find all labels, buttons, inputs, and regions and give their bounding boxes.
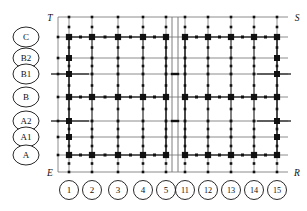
column-B-2 xyxy=(89,94,95,100)
corner-label-bottom-left: E xyxy=(46,168,53,178)
column-B-5 xyxy=(163,94,169,100)
vnode-4-0 xyxy=(142,46,145,49)
midspan-node-A-1-2 xyxy=(241,154,244,157)
vnode-bot-11 xyxy=(184,162,187,165)
node-A1-2 xyxy=(91,136,94,139)
vnode-13-4 xyxy=(230,128,233,131)
vnode-2-5 xyxy=(91,145,94,148)
vnode-5-4 xyxy=(165,128,168,131)
column-A-5 xyxy=(163,152,169,158)
vnode-3-4 xyxy=(117,128,120,131)
node-B1-11 xyxy=(184,73,187,76)
midspan-node-A-1-3 xyxy=(264,154,267,157)
midspan-node-C-1-3 xyxy=(264,36,267,39)
edge-node-top-1 xyxy=(68,16,71,19)
vnode-3-2 xyxy=(117,84,120,87)
vnode-5-0 xyxy=(165,46,168,49)
vnode-1-1 xyxy=(68,65,71,68)
column-C-3 xyxy=(115,34,121,40)
node-A1-4 xyxy=(142,136,145,139)
node-B2-3 xyxy=(117,57,120,60)
edge-node-bottom-13 xyxy=(230,171,233,174)
vnode-14-0 xyxy=(253,46,256,49)
edge-node-top-5 xyxy=(165,16,168,19)
row-label-text-A: A xyxy=(23,150,30,160)
vnode-2-0 xyxy=(91,46,94,49)
vnode-14-3 xyxy=(253,108,256,111)
vnode-bot-2 xyxy=(91,162,94,165)
vnode-bot-4 xyxy=(142,162,145,165)
col-label-text-14: 14 xyxy=(250,186,258,195)
edge-node-bottom-4 xyxy=(142,171,145,174)
row-label-text-B2: B2 xyxy=(21,53,32,63)
node-B2-14 xyxy=(253,57,256,60)
edge-node-top-2 xyxy=(91,16,94,19)
edge-node-left-B2 xyxy=(57,57,60,60)
midspan-node-A-1-0 xyxy=(195,154,198,157)
edge-node-top-13 xyxy=(230,16,233,19)
midspan-node-A-0-2 xyxy=(129,154,132,157)
vnode-1-3 xyxy=(68,108,71,111)
vnode-12-4 xyxy=(207,128,210,131)
node-B2-2 xyxy=(91,57,94,60)
column-C-1 xyxy=(66,34,72,40)
vnode-1-4 xyxy=(68,128,71,131)
vnode-5-5 xyxy=(165,145,168,148)
column-B-3 xyxy=(115,94,121,100)
midspan-node-C-0-3 xyxy=(153,36,156,39)
column-C-4 xyxy=(140,34,146,40)
node-A2-13 xyxy=(230,120,233,123)
vnode-bot-1 xyxy=(68,162,71,165)
expansion-joint-tick-0 xyxy=(171,73,179,75)
node-A2-5 xyxy=(165,120,168,123)
vnode-2-4 xyxy=(91,128,94,131)
midspan-node-B-1-1 xyxy=(218,96,221,99)
midspan-node-C-0-2 xyxy=(129,36,132,39)
edge-node-top-15 xyxy=(276,16,279,19)
node-A2-4 xyxy=(142,120,145,123)
column-C-15 xyxy=(274,34,280,40)
vnode-13-0 xyxy=(230,46,233,49)
column-A-11 xyxy=(182,152,188,158)
column-B-15 xyxy=(274,94,280,100)
edge-node-left-A1 xyxy=(57,136,60,139)
vnode-15-1 xyxy=(276,65,279,68)
midspan-node-A-0-0 xyxy=(79,154,82,157)
vnode-top-15 xyxy=(276,26,279,29)
node-A1-3 xyxy=(117,136,120,139)
column-A1-1 xyxy=(66,134,72,140)
node-B1-13 xyxy=(230,73,233,76)
plan-svg: TSERCB2B1BA2A1A123451112131415 xyxy=(0,0,307,211)
midspan-node-B-0-3 xyxy=(153,96,156,99)
vnode-top-14 xyxy=(253,26,256,29)
column-A-14 xyxy=(251,152,257,158)
node-A2-14 xyxy=(253,120,256,123)
column-A-3 xyxy=(115,152,121,158)
edge-node-left-B1 xyxy=(57,73,60,76)
vnode-11-4 xyxy=(184,128,187,131)
column-A-1 xyxy=(66,152,72,158)
edge-node-top-12 xyxy=(207,16,210,19)
node-B1-3 xyxy=(117,73,120,76)
vnode-15-3 xyxy=(276,108,279,111)
node-B2-11 xyxy=(184,57,187,60)
edge-node-bottom-2 xyxy=(91,171,94,174)
vnode-15-4 xyxy=(276,128,279,131)
framing-plan-diagram: TSERCB2B1BA2A1A123451112131415 xyxy=(0,0,307,211)
midspan-node-B-1-2 xyxy=(241,96,244,99)
vnode-top-4 xyxy=(142,26,145,29)
vnode-2-1 xyxy=(91,65,94,68)
vnode-13-5 xyxy=(230,145,233,148)
vnode-11-0 xyxy=(184,46,187,49)
vnode-top-2 xyxy=(91,26,94,29)
vnode-11-3 xyxy=(184,108,187,111)
vnode-3-3 xyxy=(117,108,120,111)
vnode-11-5 xyxy=(184,145,187,148)
node-A1-13 xyxy=(230,136,233,139)
edge-node-top-3 xyxy=(117,16,120,19)
vnode-14-4 xyxy=(253,128,256,131)
node-A1-12 xyxy=(207,136,210,139)
midspan-node-A-0-1 xyxy=(104,154,107,157)
vnode-bot-3 xyxy=(117,162,120,165)
column-B2-15 xyxy=(274,55,280,61)
